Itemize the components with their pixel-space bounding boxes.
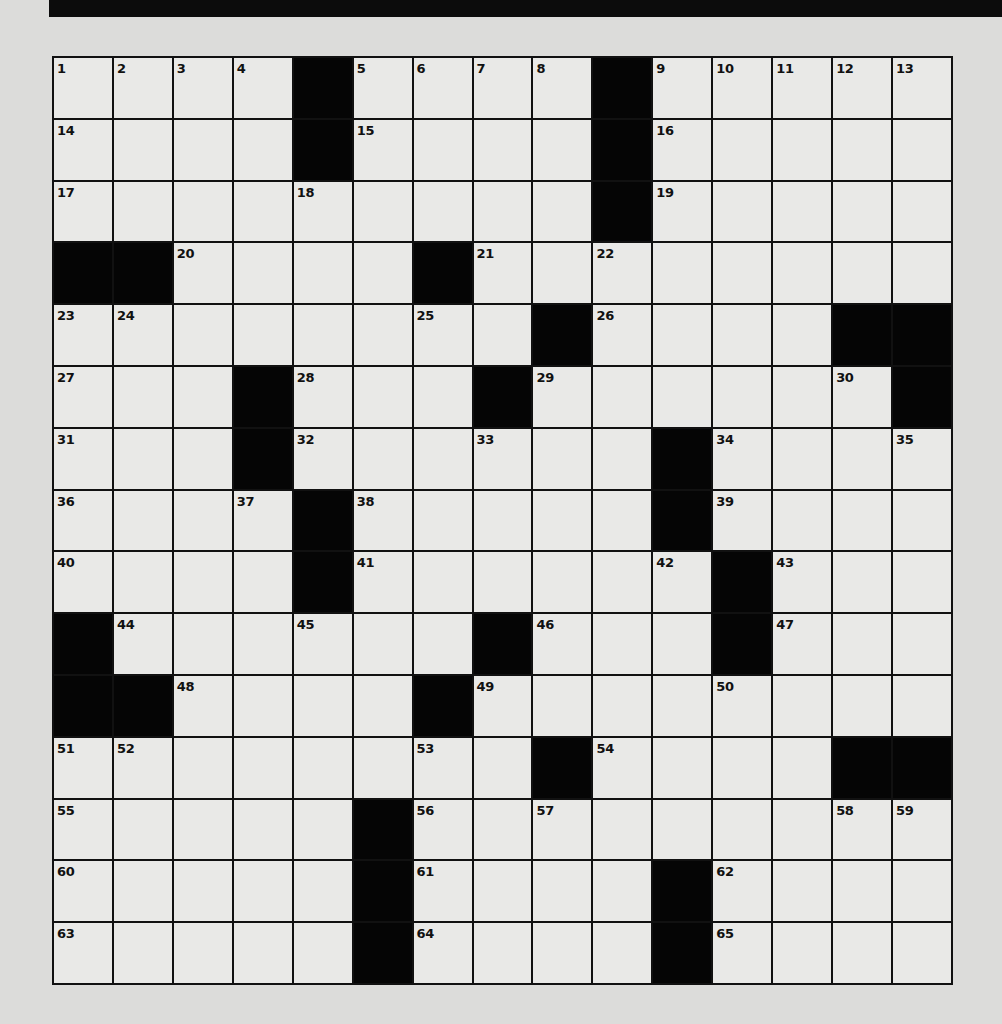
- grid-cell[interactable]: [893, 491, 951, 551]
- grid-cell[interactable]: 46: [533, 614, 591, 674]
- grid-cell[interactable]: [773, 923, 831, 983]
- grid-cell[interactable]: [354, 243, 412, 303]
- grid-cell[interactable]: [653, 738, 711, 798]
- grid-cell[interactable]: [833, 676, 891, 736]
- grid-cell[interactable]: 57: [533, 800, 591, 860]
- grid-cell[interactable]: 36: [54, 491, 112, 551]
- grid-cell[interactable]: [294, 861, 352, 921]
- grid-cell[interactable]: [653, 800, 711, 860]
- grid-cell[interactable]: 55: [54, 800, 112, 860]
- grid-cell[interactable]: [533, 429, 591, 489]
- grid-cell[interactable]: [414, 429, 472, 489]
- grid-cell[interactable]: 43: [773, 552, 831, 612]
- grid-cell[interactable]: [713, 738, 771, 798]
- grid-cell[interactable]: [114, 923, 172, 983]
- grid-cell[interactable]: 2: [114, 58, 172, 118]
- grid-cell[interactable]: [354, 676, 412, 736]
- grid-cell[interactable]: 40: [54, 552, 112, 612]
- grid-cell[interactable]: [893, 552, 951, 612]
- grid-cell[interactable]: 29: [533, 367, 591, 427]
- grid-cell[interactable]: [474, 182, 532, 242]
- grid-cell[interactable]: [893, 182, 951, 242]
- grid-cell[interactable]: 18: [294, 182, 352, 242]
- grid-cell[interactable]: [294, 243, 352, 303]
- grid-cell[interactable]: [114, 552, 172, 612]
- grid-cell[interactable]: 15: [354, 120, 412, 180]
- grid-cell[interactable]: 53: [414, 738, 472, 798]
- grid-cell[interactable]: [354, 182, 412, 242]
- grid-cell[interactable]: [414, 614, 472, 674]
- grid-cell[interactable]: 7: [474, 58, 532, 118]
- grid-cell[interactable]: 48: [174, 676, 232, 736]
- grid-cell[interactable]: [414, 367, 472, 427]
- grid-cell[interactable]: [773, 491, 831, 551]
- grid-cell[interactable]: [593, 367, 651, 427]
- grid-cell[interactable]: 65: [713, 923, 771, 983]
- grid-cell[interactable]: 27: [54, 367, 112, 427]
- grid-cell[interactable]: 38: [354, 491, 412, 551]
- grid-cell[interactable]: [773, 243, 831, 303]
- grid-cell[interactable]: 12: [833, 58, 891, 118]
- grid-cell[interactable]: [114, 861, 172, 921]
- grid-cell[interactable]: [653, 676, 711, 736]
- grid-cell[interactable]: [833, 491, 891, 551]
- grid-cell[interactable]: 1: [54, 58, 112, 118]
- grid-cell[interactable]: [893, 676, 951, 736]
- grid-cell[interactable]: [474, 305, 532, 365]
- grid-cell[interactable]: 62: [713, 861, 771, 921]
- grid-cell[interactable]: [174, 120, 232, 180]
- grid-cell[interactable]: 58: [833, 800, 891, 860]
- grid-cell[interactable]: 19: [653, 182, 711, 242]
- grid-cell[interactable]: 33: [474, 429, 532, 489]
- grid-cell[interactable]: [833, 923, 891, 983]
- grid-cell[interactable]: [773, 305, 831, 365]
- grid-cell[interactable]: [533, 676, 591, 736]
- grid-cell[interactable]: [234, 305, 292, 365]
- grid-cell[interactable]: 13: [893, 58, 951, 118]
- grid-cell[interactable]: [653, 305, 711, 365]
- grid-cell[interactable]: 63: [54, 923, 112, 983]
- grid-cell[interactable]: 23: [54, 305, 112, 365]
- grid-cell[interactable]: [354, 305, 412, 365]
- grid-cell[interactable]: [474, 491, 532, 551]
- grid-cell[interactable]: 52: [114, 738, 172, 798]
- grid-cell[interactable]: [114, 491, 172, 551]
- grid-cell[interactable]: 3: [174, 58, 232, 118]
- grid-cell[interactable]: [174, 800, 232, 860]
- grid-cell[interactable]: [174, 305, 232, 365]
- grid-cell[interactable]: [533, 120, 591, 180]
- grid-cell[interactable]: 34: [713, 429, 771, 489]
- grid-cell[interactable]: [833, 243, 891, 303]
- grid-cell[interactable]: [773, 367, 831, 427]
- grid-cell[interactable]: [833, 552, 891, 612]
- grid-cell[interactable]: [833, 614, 891, 674]
- grid-cell[interactable]: 26: [593, 305, 651, 365]
- grid-cell[interactable]: 14: [54, 120, 112, 180]
- grid-cell[interactable]: 31: [54, 429, 112, 489]
- grid-cell[interactable]: 25: [414, 305, 472, 365]
- grid-cell[interactable]: [174, 552, 232, 612]
- grid-cell[interactable]: 41: [354, 552, 412, 612]
- grid-cell[interactable]: [653, 243, 711, 303]
- grid-cell[interactable]: [533, 491, 591, 551]
- grid-cell[interactable]: [294, 800, 352, 860]
- grid-cell[interactable]: [114, 182, 172, 242]
- grid-cell[interactable]: [234, 676, 292, 736]
- grid-cell[interactable]: [773, 800, 831, 860]
- grid-cell[interactable]: [474, 800, 532, 860]
- grid-cell[interactable]: 17: [54, 182, 112, 242]
- grid-cell[interactable]: [114, 800, 172, 860]
- grid-cell[interactable]: [234, 120, 292, 180]
- grid-cell[interactable]: 30: [833, 367, 891, 427]
- grid-cell[interactable]: [713, 800, 771, 860]
- grid-cell[interactable]: [713, 305, 771, 365]
- grid-cell[interactable]: [474, 738, 532, 798]
- grid-cell[interactable]: [593, 861, 651, 921]
- grid-cell[interactable]: [174, 614, 232, 674]
- grid-cell[interactable]: 21: [474, 243, 532, 303]
- grid-cell[interactable]: 16: [653, 120, 711, 180]
- grid-cell[interactable]: [474, 120, 532, 180]
- grid-cell[interactable]: 49: [474, 676, 532, 736]
- grid-cell[interactable]: [234, 923, 292, 983]
- grid-cell[interactable]: [234, 738, 292, 798]
